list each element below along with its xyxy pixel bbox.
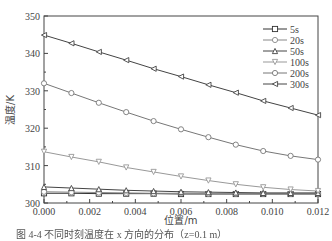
y-axis-label: 温度/K (4, 95, 16, 125)
legend-label: 20s (290, 35, 304, 46)
circle-marker-icon (41, 81, 46, 86)
plot-area: 300310320330340350 0.0000.0020.0040.0060… (4, 11, 329, 226)
x-axis-label: 位置/m (164, 214, 197, 226)
y-tick-label: 340 (25, 48, 40, 59)
triangle-left-marker-icon (288, 105, 293, 110)
triangle-left-marker-icon (233, 90, 238, 95)
triangle-left-marker-icon (178, 74, 183, 79)
legend-label: 50s (290, 46, 304, 57)
x-tick-label: 0.008 (215, 206, 238, 217)
legend-item-200s: 200s (263, 68, 309, 79)
series-100s (41, 149, 320, 193)
triangle-left-marker-icon (124, 58, 129, 63)
y-tick-label: 350 (25, 11, 40, 22)
y-tick-label: 330 (25, 86, 40, 97)
series-line (44, 152, 318, 191)
triangle-left-marker-icon (151, 66, 156, 71)
legend-label: 100s (290, 57, 309, 68)
circle-marker-icon (151, 118, 156, 123)
legend-item-50s: 50s (263, 46, 304, 57)
x-tick-label: 0.010 (261, 206, 284, 217)
y-tick-label: 310 (25, 161, 40, 172)
x-tick-label: 0.000 (33, 206, 56, 217)
circle-marker-icon (69, 90, 74, 95)
x-tick-label: 0.004 (124, 206, 147, 217)
legend-label: 300s (290, 79, 309, 90)
legend-label: 200s (290, 68, 309, 79)
y-axis-ticks: 300310320330340350 (25, 11, 48, 209)
x-tick-label: 0.002 (78, 206, 101, 217)
series-line (44, 83, 318, 159)
series-300s (41, 32, 320, 117)
square-marker-icon (272, 26, 277, 31)
circle-marker-icon (272, 37, 277, 42)
triangle-left-marker-icon (261, 98, 266, 103)
circle-marker-icon (178, 127, 183, 132)
figure-caption: 图 4-4 不同时刻温度在 x 方向的分布（z=0.1 m） (0, 226, 332, 241)
circle-marker-icon (96, 100, 101, 105)
legend-item-20s: 20s (263, 35, 304, 46)
circle-marker-icon (233, 142, 238, 147)
triangle-left-marker-icon (96, 49, 101, 54)
circle-marker-icon (124, 110, 129, 115)
circle-marker-icon (206, 135, 211, 140)
circle-marker-icon (315, 157, 320, 162)
triangle-left-marker-icon (272, 81, 277, 86)
series-group (41, 32, 320, 196)
y-tick-label: 320 (25, 123, 40, 134)
triangle-left-marker-icon (69, 41, 74, 46)
line-chart: 300310320330340350 0.0000.0020.0040.0060… (0, 0, 332, 241)
legend-item-5s: 5s (263, 24, 299, 35)
circle-marker-icon (288, 153, 293, 158)
legend-item-300s: 300s (263, 79, 309, 90)
legend-item-100s: 100s (263, 57, 309, 68)
series-200s (41, 81, 320, 162)
x-tick-label: 0.012 (307, 206, 330, 217)
circle-marker-icon (272, 70, 277, 75)
legend-label: 5s (290, 24, 299, 35)
circle-marker-icon (261, 148, 266, 153)
legend: 5s20s50s100s200s300s (263, 24, 309, 90)
triangle-left-marker-icon (206, 82, 211, 87)
